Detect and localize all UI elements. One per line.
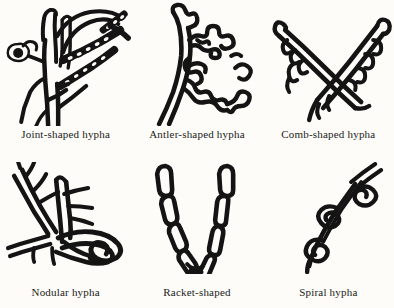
- panel-caption: Nodular hypha: [32, 286, 100, 299]
- joint-shaped-hypha-drawing: [0, 0, 131, 126]
- panel-caption: Antler-shaped hypha: [149, 128, 245, 141]
- racket-shaped-hypha-drawing: [131, 162, 262, 274]
- panel-caption: Spiral hypha: [299, 286, 357, 299]
- racket-chain-right: [200, 166, 234, 274]
- nodular-hypha-drawing: [0, 162, 131, 274]
- hyphal-morphology-figure: Joint-shaped hypha: [0, 0, 394, 308]
- panel-grid: Joint-shaped hypha: [0, 0, 394, 308]
- panel-racket-shaped-hypha: Racket-shaped: [131, 154, 262, 308]
- comb-shaped-hypha-drawing: [263, 0, 394, 126]
- panel-spiral-hypha: Spiral hypha: [263, 154, 394, 308]
- panel-caption: Joint-shaped hypha: [21, 128, 110, 141]
- nodular-knot: [56, 232, 121, 264]
- panel-caption: Comb-shaped hypha: [281, 128, 375, 141]
- racket-chain-left: [157, 166, 197, 274]
- panel-caption: Racket-shaped: [163, 286, 230, 299]
- spiral-hypha-drawing: [263, 162, 394, 274]
- panel-comb-shaped-hypha: Comb-shaped hypha: [263, 0, 394, 154]
- antler-shaped-hypha-drawing: [131, 0, 262, 126]
- panel-antler-shaped-hypha: Antler-shaped hypha: [131, 0, 262, 154]
- panel-nodular-hypha: Nodular hypha: [0, 154, 131, 308]
- panel-joint-shaped-hypha: Joint-shaped hypha: [0, 0, 131, 154]
